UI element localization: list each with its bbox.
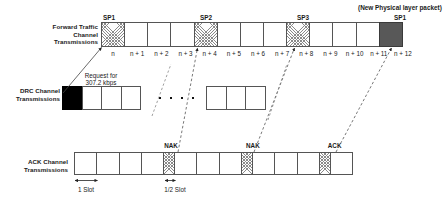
guide-line-left [152, 64, 171, 116]
connector-drc-to-sp1 [63, 48, 102, 94]
guide-line-right [268, 64, 287, 120]
connector-overlay [0, 0, 448, 199]
connector-nak2-to-sp3 [254, 48, 295, 152]
connector-ack-to-sp1 [336, 48, 392, 152]
diagram-canvas: Forward Traffic Channel Transmissions SP… [0, 0, 448, 199]
connector-nak1-to-sp2 [178, 48, 198, 152]
